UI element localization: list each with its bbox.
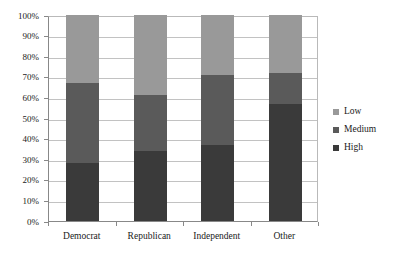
x-axis-tick-mark [251, 222, 252, 226]
x-axis: DemocratRepublicanIndependentOther [48, 222, 318, 257]
y-axis-tick-label: 0% [27, 218, 39, 227]
y-axis-tick-label: 30% [23, 156, 40, 165]
bars-layer [49, 17, 317, 221]
bar-segment[interactable] [134, 95, 167, 151]
x-axis-tick-label: Republican [116, 231, 184, 242]
legend-label: High [344, 142, 363, 153]
legend-label: Low [344, 106, 361, 117]
legend-swatch-icon [333, 109, 339, 115]
bar-segment[interactable] [134, 15, 167, 95]
x-axis-tick-label: Democrat [48, 231, 116, 242]
x-axis-tick-mark [318, 222, 319, 226]
legend-item[interactable]: Low [333, 104, 403, 119]
chart-legend: LowMediumHigh [333, 104, 403, 158]
x-axis-tick-mark [183, 222, 184, 226]
bar-segment[interactable] [269, 104, 302, 221]
bar-group [201, 17, 234, 221]
bar-segment[interactable] [201, 145, 234, 221]
legend-swatch-icon [333, 127, 339, 133]
bar-segment[interactable] [134, 151, 167, 221]
bar-segment[interactable] [66, 83, 99, 163]
y-axis-tick-label: 70% [23, 73, 40, 82]
bar-group [134, 17, 167, 221]
x-axis-tick-label: Other [251, 231, 319, 242]
legend-swatch-icon [333, 145, 339, 151]
stacked-bar-chart: 0%10%20%30%40%50%60%70%80%90%100% Democr… [0, 0, 405, 257]
x-axis-tick-mark [48, 222, 49, 226]
y-axis-tick-label: 10% [23, 197, 40, 206]
y-axis-tick-label: 50% [23, 115, 40, 124]
y-axis-tick-label: 90% [23, 32, 40, 41]
legend-item[interactable]: Medium [333, 122, 403, 137]
legend-item[interactable]: High [333, 140, 403, 155]
bar-group [66, 17, 99, 221]
y-axis: 0%10%20%30%40%50%60%70%80%90%100% [0, 0, 48, 257]
y-axis-tick-label: 80% [23, 53, 40, 62]
legend-label: Medium [344, 124, 376, 135]
bar-segment[interactable] [66, 15, 99, 83]
y-axis-tick-label: 60% [23, 94, 40, 103]
x-axis-tick-label: Independent [183, 231, 251, 242]
bar-segment[interactable] [269, 15, 302, 73]
bar-segment[interactable] [201, 15, 234, 75]
y-axis-tick-label: 40% [23, 135, 40, 144]
bar-group [269, 17, 302, 221]
plot-area [48, 16, 318, 222]
x-axis-tick-mark [116, 222, 117, 226]
y-axis-tick-label: 20% [23, 176, 40, 185]
bar-segment[interactable] [66, 163, 99, 221]
y-axis-tick-label: 100% [18, 12, 39, 21]
bar-segment[interactable] [269, 73, 302, 104]
bar-segment[interactable] [201, 75, 234, 145]
